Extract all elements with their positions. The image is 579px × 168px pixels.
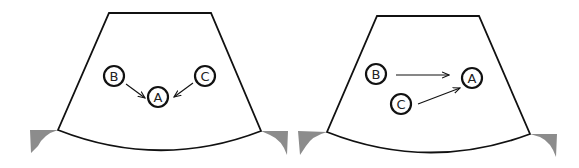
node-right-c: C <box>391 94 411 114</box>
node-left-a: A <box>148 87 168 107</box>
left-wedge-left <box>30 130 58 153</box>
node-right-a: A <box>462 68 482 88</box>
node-label: B <box>110 69 119 84</box>
node-left-c: C <box>195 66 215 86</box>
left-trapezoid <box>58 13 261 150</box>
right-wedge-left <box>298 131 327 155</box>
node-label: A <box>154 90 163 105</box>
node-label: C <box>200 69 209 84</box>
right-trapezoid <box>327 16 530 153</box>
node-left-b: B <box>104 66 124 86</box>
left-panel <box>30 13 288 155</box>
diagram-canvas: BACBAC <box>0 0 579 168</box>
node-label: B <box>372 67 381 82</box>
left-wedge-right <box>261 131 288 155</box>
right-panel <box>298 16 557 157</box>
right-wedge-right <box>530 134 557 157</box>
node-label: A <box>468 71 477 86</box>
node-label: C <box>396 97 405 112</box>
node-right-b: B <box>366 64 386 84</box>
